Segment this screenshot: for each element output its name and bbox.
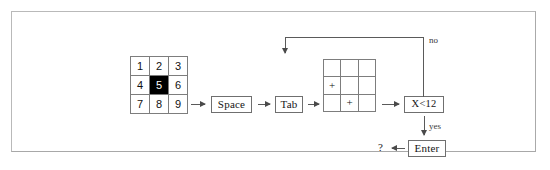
arrow-enter-to-question-icon xyxy=(392,148,405,149)
number-grid-cell-7: 7 xyxy=(131,95,150,114)
number-grid-cell-9: 9 xyxy=(169,95,188,114)
arrow-space-to-tab-icon xyxy=(258,104,270,105)
no-branch-loop xyxy=(285,37,424,98)
figure-screenshot: 1 2 3 4 5 6 7 8 9 Space Tab + xyxy=(0,0,550,170)
arrow-tab-to-plus-grid-icon xyxy=(308,104,319,105)
number-grid-cell-8: 8 xyxy=(150,95,169,114)
number-grid-cell-6: 6 xyxy=(169,76,188,95)
space-key-box: Space xyxy=(211,96,252,113)
edge-label-no: no xyxy=(429,36,438,45)
arrow-plus-grid-to-condition-icon xyxy=(382,104,399,105)
arrow-condition-to-enter-icon xyxy=(424,116,425,135)
number-grid-cell-1: 1 xyxy=(131,57,150,76)
edge-label-yes: yes xyxy=(429,122,441,131)
page-frame: 1 2 3 4 5 6 7 8 9 Space Tab + xyxy=(11,11,536,152)
no-loop-arrow-down-icon xyxy=(285,37,286,53)
tab-key-box: Tab xyxy=(275,96,303,113)
enter-key-box: Enter xyxy=(408,140,446,157)
no-loop-top-segment xyxy=(285,37,424,38)
no-loop-right-segment xyxy=(423,37,424,97)
question-mark-label: ? xyxy=(378,142,383,153)
number-grid-cell-4: 4 xyxy=(131,76,150,95)
number-grid-cell-5-selected: 5 xyxy=(150,76,169,95)
number-grid: 1 2 3 4 5 6 7 8 9 xyxy=(130,56,188,114)
arrow-grid-to-space-icon xyxy=(191,104,205,105)
number-grid-cell-3: 3 xyxy=(169,57,188,76)
condition-box: X<12 xyxy=(404,96,444,113)
number-grid-cell-2: 2 xyxy=(150,57,169,76)
